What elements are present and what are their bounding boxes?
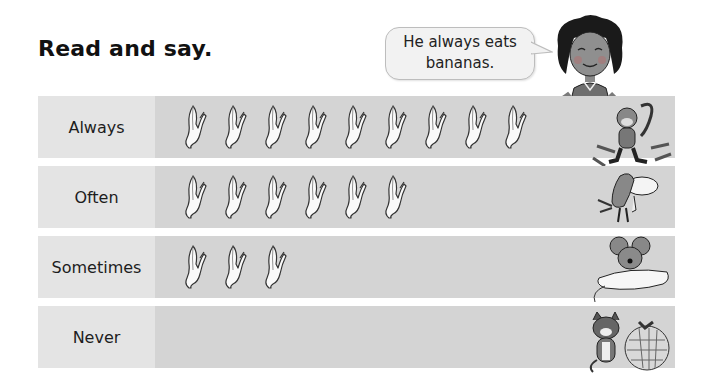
- banana-icon: [380, 174, 407, 224]
- frequency-row-sometimes: Sometimes: [38, 236, 675, 298]
- frequency-row-always: Always: [38, 96, 675, 158]
- banana-icon: [300, 174, 327, 224]
- frequency-row-often: Often: [38, 166, 675, 228]
- frequency-row-never: Never: [38, 306, 675, 368]
- banana-icon: [180, 244, 207, 294]
- banana-group: [180, 174, 407, 224]
- banana-icon: [220, 244, 247, 294]
- banana-icon: [300, 104, 327, 154]
- frequency-label: Never: [38, 306, 155, 368]
- banana-icon: [340, 174, 367, 224]
- banana-icon: [460, 104, 487, 154]
- banana-icon: [220, 174, 247, 224]
- banana-icon: [340, 104, 367, 154]
- banana-icon: [380, 104, 407, 154]
- speech-line-2: bananas.: [386, 53, 534, 74]
- banana-icon: [220, 104, 247, 154]
- banana-group: [180, 104, 527, 154]
- speech-bubble: He always eats bananas.: [385, 27, 535, 80]
- banana-icon: [180, 104, 207, 154]
- mouse-illustration: [585, 236, 675, 310]
- frequency-label: Always: [38, 96, 155, 158]
- banana-icon: [500, 104, 527, 154]
- banana-group: [180, 244, 287, 294]
- cat-illustration: [583, 310, 673, 378]
- speech-line-1: He always eats: [386, 32, 534, 53]
- banana-icon: [260, 104, 287, 154]
- bird-illustration: [590, 166, 670, 234]
- frequency-label: Often: [38, 166, 155, 228]
- banana-icon: [420, 104, 447, 154]
- banana-icon: [260, 174, 287, 224]
- frequency-label: Sometimes: [38, 236, 155, 298]
- girl-illustration: [540, 8, 640, 108]
- banana-icon: [180, 174, 207, 224]
- banana-icon: [260, 244, 287, 294]
- page-title: Read and say.: [38, 36, 213, 61]
